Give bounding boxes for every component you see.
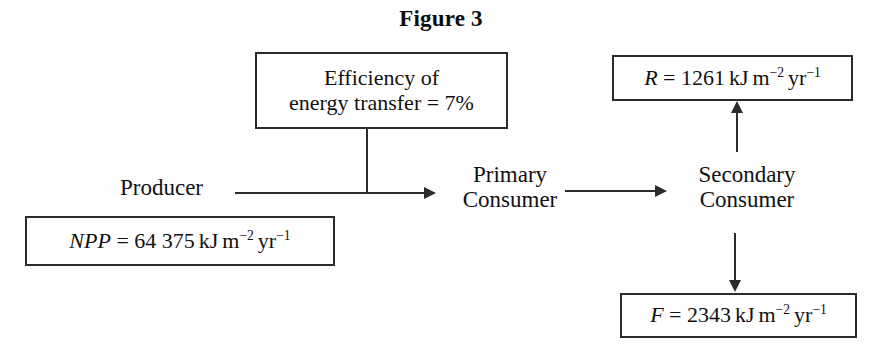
node-label-producer: Producer bbox=[120, 176, 203, 201]
figure-title: Figure 3 bbox=[0, 6, 882, 32]
arrow-secondary-consumer-to-faeces-line bbox=[734, 233, 736, 281]
faeces-unit-time-exponent: −1 bbox=[812, 302, 827, 317]
respiration-expression: R = 1261kJm−2yr−1 bbox=[644, 66, 821, 91]
efficiency-line-2: energy transfer = 7% bbox=[289, 91, 474, 116]
npp-unit-energy: kJ bbox=[199, 228, 219, 253]
npp-unit-area: m bbox=[222, 228, 239, 253]
arrow-secondary-consumer-to-respiration-line bbox=[736, 112, 738, 152]
npp-unit-area-exponent: −2 bbox=[239, 227, 254, 242]
faeces-expression: F = 2343kJm−2yr−1 bbox=[650, 303, 827, 328]
arrow-producer-to-primary-consumer-line bbox=[235, 192, 427, 194]
faeces-unit-time: yr bbox=[794, 302, 812, 327]
npp-unit-time-exponent: −1 bbox=[276, 227, 291, 242]
secondary-consumer-line-1: Secondary bbox=[672, 163, 822, 188]
node-label-secondary-consumer: Secondary Consumer bbox=[672, 163, 822, 213]
npp-value-box: NPP = 64 375kJm−2yr−1 bbox=[25, 216, 335, 266]
faeces-unit-area-exponent: −2 bbox=[776, 302, 791, 317]
respiration-unit-area-exponent: −2 bbox=[770, 64, 785, 79]
primary-consumer-line-1: Primary bbox=[440, 163, 580, 188]
arrow-primary-to-secondary-consumer-head-icon bbox=[655, 185, 667, 197]
faeces-unit-area: m bbox=[758, 302, 775, 327]
npp-value: 64 375 bbox=[134, 228, 195, 253]
respiration-symbol: R bbox=[644, 65, 657, 90]
npp-equals: = bbox=[111, 228, 134, 253]
faeces-value: 2343 bbox=[687, 302, 731, 327]
arrow-primary-to-secondary-consumer-line bbox=[565, 190, 658, 192]
figure-3-energy-flow-diagram: Figure 3 Efficiency of energy transfer =… bbox=[0, 0, 882, 351]
efficiency-value: 7% bbox=[445, 90, 474, 115]
respiration-value: 1261 bbox=[681, 65, 725, 90]
respiration-unit-energy: kJ bbox=[729, 65, 749, 90]
respiration-value-box: R = 1261kJm−2yr−1 bbox=[612, 55, 853, 101]
npp-symbol: NPP bbox=[69, 228, 111, 253]
respiration-unit-time: yr bbox=[788, 65, 806, 90]
respiration-unit-area: m bbox=[752, 65, 769, 90]
faeces-value-box: F = 2343kJm−2yr−1 bbox=[620, 293, 857, 338]
secondary-consumer-line-2: Consumer bbox=[672, 188, 822, 213]
arrow-secondary-consumer-to-respiration-head-icon bbox=[731, 101, 743, 113]
arrow-producer-to-primary-consumer-head-icon bbox=[424, 187, 436, 199]
faeces-symbol: F bbox=[650, 302, 663, 327]
faeces-unit-energy: kJ bbox=[735, 302, 755, 327]
efficiency-line-1: Efficiency of bbox=[324, 66, 439, 91]
efficiency-box-connector-line bbox=[366, 129, 368, 193]
efficiency-label: energy transfer = bbox=[289, 90, 445, 115]
respiration-equals: = bbox=[658, 65, 681, 90]
arrow-secondary-consumer-to-faeces-head-icon bbox=[729, 280, 741, 292]
efficiency-of-energy-transfer-box: Efficiency of energy transfer = 7% bbox=[255, 52, 508, 129]
npp-expression: NPP = 64 375kJm−2yr−1 bbox=[69, 229, 290, 254]
node-label-primary-consumer: Primary Consumer bbox=[440, 163, 580, 213]
primary-consumer-line-2: Consumer bbox=[440, 188, 580, 213]
npp-unit-time: yr bbox=[258, 228, 276, 253]
faeces-equals: = bbox=[664, 302, 687, 327]
respiration-unit-time-exponent: −1 bbox=[806, 64, 821, 79]
